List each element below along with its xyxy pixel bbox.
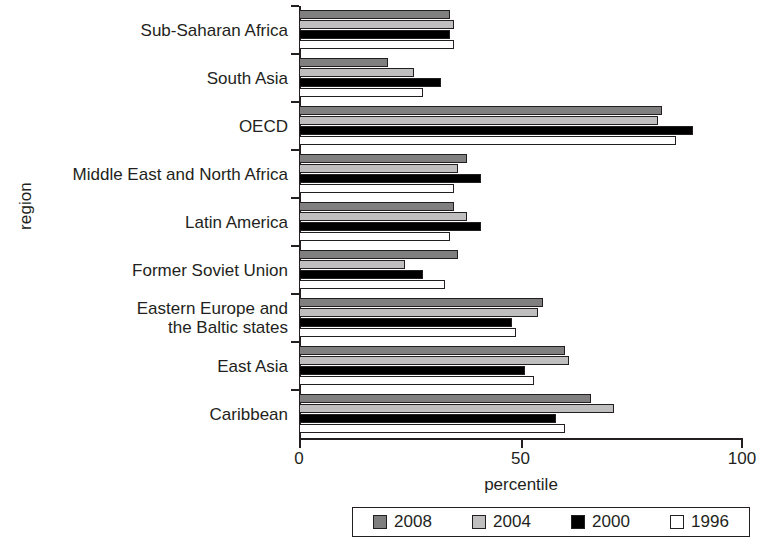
x-axis-title: percentile [299, 475, 743, 495]
x-tick-label: 50 [491, 449, 551, 469]
bar-2000 [299, 222, 481, 231]
category-tick [291, 149, 299, 151]
category-label: Middle East and North Africa [0, 165, 288, 184]
bar-2000 [299, 126, 693, 135]
bar-1996 [299, 424, 565, 433]
bar-2004 [299, 356, 569, 365]
legend-entry-2000: 2000 [551, 512, 650, 532]
bar-2008 [299, 58, 388, 67]
category-tick [291, 53, 299, 55]
legend-entry-2008: 2008 [353, 512, 452, 532]
bar-1996 [299, 88, 423, 97]
legend-label: 2008 [394, 512, 432, 532]
bar-2004 [299, 404, 614, 413]
bar-2000 [299, 318, 512, 327]
x-tick [521, 440, 523, 448]
category-label: East Asia [0, 357, 288, 376]
bar-2004 [299, 116, 658, 125]
category-tick [291, 5, 299, 7]
category-row [299, 150, 742, 198]
legend-entry-2004: 2004 [452, 512, 551, 532]
x-tick [299, 440, 301, 448]
bar-2004 [299, 260, 405, 269]
category-tick [291, 245, 299, 247]
bar-2004 [299, 20, 454, 29]
bar-2008 [299, 106, 662, 115]
bar-chart: region Sub-Saharan AfricaSouth AsiaOECDM… [0, 0, 764, 543]
bar-2008 [299, 154, 467, 163]
bar-2008 [299, 202, 454, 211]
category-row [299, 102, 742, 150]
legend-label: 2000 [592, 512, 630, 532]
bar-2008 [299, 346, 565, 355]
bar-2000 [299, 78, 441, 87]
category-label: Caribbean [0, 405, 288, 424]
bar-2000 [299, 174, 481, 183]
x-tick-label: 100 [712, 449, 764, 469]
category-tick [291, 389, 299, 391]
category-label: OECD [0, 117, 288, 136]
legend-label: 2004 [493, 512, 531, 532]
bar-2004 [299, 164, 458, 173]
legend-entry-1996: 1996 [650, 512, 749, 532]
bar-2008 [299, 394, 591, 403]
plot-area [299, 6, 742, 438]
category-tick [291, 101, 299, 103]
bar-2004 [299, 68, 414, 77]
category-row [299, 342, 742, 390]
x-tick [741, 440, 743, 448]
bar-2008 [299, 10, 450, 19]
bar-2008 [299, 298, 543, 307]
legend-label: 1996 [691, 512, 729, 532]
legend-swatch-icon [571, 515, 585, 529]
bar-1996 [299, 232, 450, 241]
category-tick [291, 293, 299, 295]
legend-swatch-icon [670, 515, 684, 529]
category-label: Sub-Saharan Africa [0, 21, 288, 40]
category-tick [291, 341, 299, 343]
bar-1996 [299, 136, 676, 145]
bar-1996 [299, 40, 454, 49]
category-row [299, 246, 742, 294]
category-label: South Asia [0, 69, 288, 88]
bar-2000 [299, 414, 556, 423]
bar-1996 [299, 184, 454, 193]
legend: 2008200420001996 [352, 507, 750, 537]
bar-2000 [299, 366, 525, 375]
bar-2000 [299, 270, 423, 279]
bar-2004 [299, 308, 538, 317]
bar-2004 [299, 212, 467, 221]
category-row [299, 54, 742, 102]
bar-1996 [299, 280, 445, 289]
x-tick-label: 0 [269, 449, 329, 469]
category-row [299, 198, 742, 246]
bar-1996 [299, 328, 516, 337]
category-tick [291, 197, 299, 199]
legend-swatch-icon [472, 515, 486, 529]
category-label: Eastern Europe and the Baltic states [0, 299, 288, 337]
bar-1996 [299, 376, 534, 385]
category-label: Former Soviet Union [0, 261, 288, 280]
bar-2008 [299, 250, 458, 259]
category-row [299, 6, 742, 54]
legend-swatch-icon [373, 515, 387, 529]
bar-2000 [299, 30, 450, 39]
category-label: Latin America [0, 213, 288, 232]
category-row [299, 390, 742, 438]
category-row [299, 294, 742, 342]
